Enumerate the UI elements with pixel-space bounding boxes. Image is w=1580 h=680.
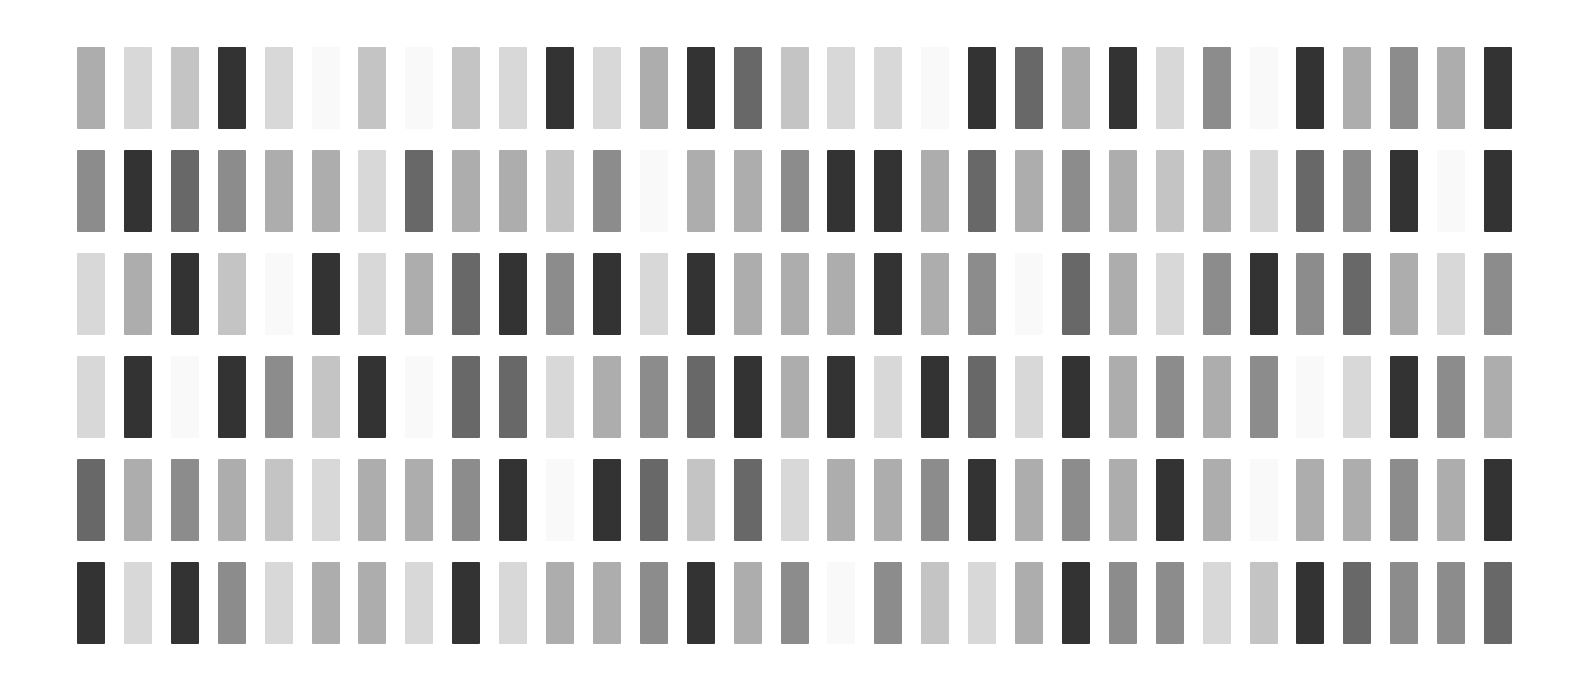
gray-rectangle	[874, 562, 902, 644]
gray-rectangle	[1015, 562, 1043, 644]
gray-rectangle	[734, 47, 762, 129]
gray-rectangle	[874, 459, 902, 541]
gray-rectangle	[1062, 150, 1090, 232]
gray-rectangle	[546, 47, 574, 129]
gray-rectangle	[921, 356, 949, 438]
gray-rectangle	[171, 459, 199, 541]
gray-rectangle	[1203, 47, 1231, 129]
gray-rectangle	[1390, 562, 1418, 644]
gray-rectangle	[968, 459, 996, 541]
gray-rectangle	[1250, 459, 1278, 541]
gray-rectangle	[124, 562, 152, 644]
gray-rectangle	[687, 356, 715, 438]
gray-rectangle	[921, 150, 949, 232]
gray-rectangle	[499, 150, 527, 232]
gray-rectangle	[1343, 562, 1371, 644]
gray-rectangle	[1015, 459, 1043, 541]
gray-rectangle	[265, 150, 293, 232]
gray-rectangle	[1390, 150, 1418, 232]
gray-rectangle	[1296, 356, 1324, 438]
gray-rectangle	[1062, 459, 1090, 541]
gray-rectangle	[968, 356, 996, 438]
gray-rectangle	[218, 47, 246, 129]
gray-rectangle	[968, 562, 996, 644]
gray-rectangle	[405, 253, 433, 335]
gray-rectangle	[1343, 150, 1371, 232]
gray-rectangle	[781, 47, 809, 129]
gray-rectangle	[452, 47, 480, 129]
gray-rectangle	[827, 47, 855, 129]
gray-rectangle	[874, 47, 902, 129]
gray-rectangle	[781, 253, 809, 335]
gray-rectangle	[1250, 562, 1278, 644]
gray-rectangle	[171, 562, 199, 644]
gray-rectangle	[124, 150, 152, 232]
gray-rectangle	[781, 150, 809, 232]
gray-rectangle	[1156, 356, 1184, 438]
gray-rectangle	[1484, 150, 1512, 232]
gray-rectangle	[77, 150, 105, 232]
gray-rectangle	[546, 459, 574, 541]
gray-rectangle	[77, 47, 105, 129]
gray-rectangle	[171, 150, 199, 232]
gray-rectangle	[640, 47, 668, 129]
gray-rectangle	[1015, 253, 1043, 335]
gray-rectangle	[77, 253, 105, 335]
gray-rectangle	[452, 562, 480, 644]
gray-rectangle	[687, 47, 715, 129]
gray-rectangle	[405, 150, 433, 232]
gray-rectangle	[499, 253, 527, 335]
gray-rectangle	[1437, 47, 1465, 129]
gray-rectangle	[124, 253, 152, 335]
gray-rectangle	[452, 253, 480, 335]
gray-rectangle	[734, 150, 762, 232]
gray-rectangle	[1343, 459, 1371, 541]
gray-rectangle	[1203, 562, 1231, 644]
gray-rectangle	[218, 253, 246, 335]
gray-rectangle	[265, 562, 293, 644]
gray-rectangle	[358, 47, 386, 129]
gray-rectangle	[405, 562, 433, 644]
gray-rectangle	[1437, 150, 1465, 232]
gray-rectangle	[312, 47, 340, 129]
gray-rectangle	[77, 459, 105, 541]
gray-rectangle	[1296, 459, 1324, 541]
gray-rectangle	[312, 356, 340, 438]
gray-rectangle	[546, 356, 574, 438]
gray-rectangle	[640, 150, 668, 232]
gray-rectangle	[1203, 459, 1231, 541]
gray-rectangle	[1484, 47, 1512, 129]
gray-rectangle	[1343, 253, 1371, 335]
gray-rectangle	[1156, 459, 1184, 541]
gray-rectangle	[640, 459, 668, 541]
gray-rectangle	[265, 253, 293, 335]
gray-rectangle	[1390, 253, 1418, 335]
gray-rectangle	[874, 150, 902, 232]
gray-rectangle	[593, 253, 621, 335]
gray-rectangle	[1062, 356, 1090, 438]
gray-rectangle	[1015, 150, 1043, 232]
gray-rectangle	[640, 562, 668, 644]
gray-rectangle	[77, 562, 105, 644]
gray-rectangle	[1390, 356, 1418, 438]
gray-rectangle	[827, 459, 855, 541]
gray-rectangle	[218, 459, 246, 541]
gray-rectangle	[358, 150, 386, 232]
gray-rectangle	[1250, 356, 1278, 438]
gray-rectangle	[1109, 459, 1137, 541]
gray-rectangle	[1250, 253, 1278, 335]
gray-rectangle	[827, 356, 855, 438]
gray-rectangle	[171, 47, 199, 129]
gray-rectangle	[405, 47, 433, 129]
gray-rectangle	[1296, 253, 1324, 335]
gray-rectangle	[218, 356, 246, 438]
gray-rectangle	[1484, 562, 1512, 644]
gray-rectangle	[687, 562, 715, 644]
gray-rectangle	[734, 459, 762, 541]
gray-rectangle	[593, 562, 621, 644]
gray-rectangle	[358, 459, 386, 541]
gray-rectangle	[499, 47, 527, 129]
gray-rectangle	[921, 47, 949, 129]
gray-rectangle	[1203, 253, 1231, 335]
gray-rectangle	[405, 356, 433, 438]
